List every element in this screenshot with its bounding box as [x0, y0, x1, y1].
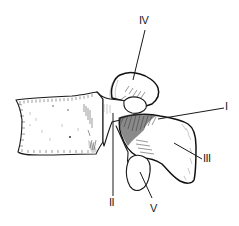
vertebral-body — [16, 92, 103, 155]
label-v: V — [150, 203, 157, 214]
label-iii: III — [203, 153, 211, 164]
label-ii: II — [109, 197, 114, 208]
vertebra-illustration — [0, 0, 239, 226]
articular-facet-upper — [124, 97, 146, 113]
label-i: I — [225, 101, 228, 112]
label-iv: IV — [139, 15, 148, 26]
leader-line-i — [158, 108, 224, 119]
leader-line-iv — [133, 30, 145, 80]
